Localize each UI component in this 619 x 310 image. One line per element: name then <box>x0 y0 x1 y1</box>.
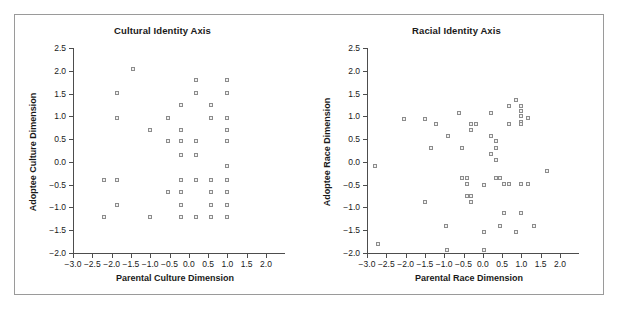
scatter-point <box>482 248 486 252</box>
scatter-point <box>225 116 229 120</box>
x-tick-label: 2.0 <box>543 259 577 269</box>
scatter-point <box>545 169 549 173</box>
scatter-point <box>482 230 486 234</box>
scatter-point <box>373 164 377 168</box>
scatter-point <box>115 116 119 120</box>
scatter-point <box>225 215 229 219</box>
scatter-point <box>194 215 198 219</box>
scatter-point <box>209 203 213 207</box>
x-tick-mark <box>150 254 151 258</box>
scatter-point <box>115 91 119 95</box>
y-tick-label: 0.5 <box>330 134 360 144</box>
x-axis-line-left <box>73 253 285 254</box>
scatter-point <box>209 116 213 120</box>
scatter-point <box>423 200 427 204</box>
x-axis-line-right <box>367 253 579 254</box>
x-tick-mark <box>189 254 190 258</box>
scatter-point <box>519 104 523 108</box>
scatter-point <box>444 224 448 228</box>
y-tick-label: −0.5 <box>36 180 66 190</box>
scatter-point <box>489 111 493 115</box>
y-tick-label: 1.5 <box>36 89 66 99</box>
x-tick-mark <box>502 254 503 258</box>
scatter-point <box>507 122 511 126</box>
scatter-point <box>194 78 198 82</box>
scatter-point <box>482 183 486 187</box>
scatter-point <box>225 190 229 194</box>
x-axis-title-left: Parental Culture Dimension <box>55 273 295 283</box>
y-tick-label: −2.0 <box>330 248 360 258</box>
figure-frame: Cultural Identity Axis 2.52.01.51.00.50.… <box>14 14 604 295</box>
x-tick-mark <box>386 254 387 258</box>
x-tick-mark <box>560 254 561 258</box>
y-tick-label: −1.5 <box>330 225 360 235</box>
scatter-point <box>166 190 170 194</box>
scatter-point <box>469 200 473 204</box>
scatter-point <box>423 117 427 121</box>
scatter-point <box>429 146 433 150</box>
y-tick-label: 0.0 <box>36 157 66 167</box>
scatter-point <box>209 190 213 194</box>
chart-panel-racial-identity: Racial Identity Axis 2.52.01.51.00.50.0−… <box>309 15 604 294</box>
x-tick-mark <box>425 254 426 258</box>
y-tick-label: 1.5 <box>330 89 360 99</box>
x-tick-mark <box>112 254 113 258</box>
scatter-point <box>179 215 183 219</box>
scatter-point <box>115 203 119 207</box>
scatter-point <box>465 182 469 186</box>
scatter-point <box>179 203 183 207</box>
scatter-point <box>474 122 478 126</box>
scatter-point <box>194 153 198 157</box>
x-tick-mark <box>92 254 93 258</box>
scatter-point <box>494 158 498 162</box>
scatter-point <box>507 182 511 186</box>
chart-panel-cultural-identity: Cultural Identity Axis 2.52.01.51.00.50.… <box>15 15 310 294</box>
y-tick-label: −2.0 <box>36 248 66 258</box>
x-tick-mark <box>131 254 132 258</box>
scatter-point <box>489 134 493 138</box>
scatter-point <box>445 248 449 252</box>
x-tick-mark <box>247 254 248 258</box>
x-tick-mark <box>208 254 209 258</box>
scatter-point <box>179 190 183 194</box>
x-tick-mark <box>483 254 484 258</box>
scatter-point <box>402 117 406 121</box>
y-tick-label: 1.0 <box>330 111 360 121</box>
y-tick-label: −0.5 <box>330 180 360 190</box>
scatter-point <box>519 114 523 118</box>
y-tick-label: 0.5 <box>36 134 66 144</box>
scatter-point <box>446 134 450 138</box>
y-tick-label: −1.0 <box>330 202 360 212</box>
scatter-point <box>460 146 464 150</box>
y-axis-title-left: Adoptee Culture Dimension <box>28 67 38 237</box>
x-tick-mark <box>521 254 522 258</box>
scatter-point <box>194 178 198 182</box>
scatter-point <box>469 194 473 198</box>
scatter-point <box>494 146 498 150</box>
scatter-point <box>102 178 106 182</box>
scatter-point <box>225 128 229 132</box>
scatter-point <box>179 128 183 132</box>
scatter-point <box>502 211 506 215</box>
y-tick-label: 1.0 <box>36 111 66 121</box>
scatter-point <box>166 116 170 120</box>
scatter-point <box>489 152 493 156</box>
scatter-point <box>460 176 464 180</box>
scatter-point <box>148 215 152 219</box>
x-tick-mark <box>73 254 74 258</box>
scatter-point <box>526 116 530 120</box>
scatter-point <box>225 178 229 182</box>
scatter-point <box>514 98 518 102</box>
scatter-point <box>179 139 183 143</box>
scatter-point <box>194 91 198 95</box>
x-tick-mark <box>170 254 171 258</box>
scatter-point <box>194 139 198 143</box>
scatter-point <box>225 91 229 95</box>
scatter-point <box>465 176 469 180</box>
y-tick-label: −1.5 <box>36 225 66 235</box>
scatter-point <box>498 176 502 180</box>
scatter-point <box>115 178 119 182</box>
scatter-point <box>519 182 523 186</box>
scatter-point <box>469 128 473 132</box>
y-axis-title-right: Adoptee Race Dimension <box>322 67 332 237</box>
